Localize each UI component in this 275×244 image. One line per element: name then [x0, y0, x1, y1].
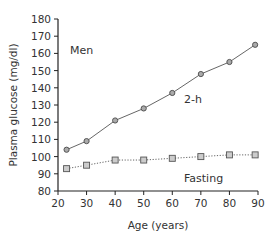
data-point-square [64, 166, 70, 172]
data-point-circle [253, 42, 258, 47]
x-tick-label: 90 [251, 197, 264, 209]
data-point-square [169, 155, 175, 161]
annotation-2h: 2-h [184, 93, 202, 106]
y-tick-label: 180 [31, 13, 51, 25]
y-tick-label: 80 [38, 185, 51, 197]
data-point-circle [113, 118, 118, 123]
x-tick-label: 40 [108, 197, 121, 209]
y-tick-label: 170 [31, 30, 51, 42]
x-tick-label: 70 [194, 197, 207, 209]
data-point-circle [141, 106, 146, 111]
series-layer [64, 42, 259, 171]
data-point-square [198, 154, 204, 160]
y-tick-label: 90 [38, 168, 51, 180]
y-tick-label: 130 [31, 99, 51, 111]
data-point-square [112, 157, 118, 163]
y-tick-label: 110 [31, 133, 51, 145]
data-point-circle [170, 90, 175, 95]
data-point-circle [198, 71, 203, 76]
data-point-square [226, 152, 232, 158]
data-point-square [84, 162, 90, 168]
y-tick-label: 150 [31, 65, 51, 77]
data-point-circle [84, 139, 89, 144]
x-tick-label: 60 [166, 197, 179, 209]
x-tick-label: 20 [51, 197, 64, 209]
x-tick-label: 30 [80, 197, 93, 209]
annotation-men: Men [70, 44, 93, 57]
annotation-fasting: Fasting [184, 172, 223, 185]
x-axis-title: Age (years) [128, 219, 189, 231]
x-tick-label: 80 [223, 197, 236, 209]
y-tick-label: 120 [31, 116, 51, 128]
y-axis-title: Plasma glucose (mg/dl) [7, 43, 19, 166]
data-point-square [141, 157, 147, 163]
data-point-circle [227, 59, 232, 64]
x-tick-label: 50 [137, 197, 150, 209]
y-tick-label: 140 [31, 82, 51, 94]
data-point-circle [64, 147, 69, 152]
axes: 8090100110120130140150160170180203040506… [31, 13, 265, 209]
y-tick-label: 100 [31, 151, 51, 163]
glucose-age-chart: 8090100110120130140150160170180203040506… [0, 0, 275, 244]
data-point-square [252, 152, 258, 158]
y-tick-label: 160 [31, 47, 51, 59]
